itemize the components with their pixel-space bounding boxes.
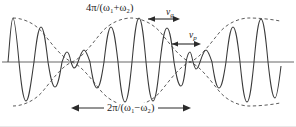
beat-period-label: 2π/(ω₁−ω₂) xyxy=(106,103,156,114)
group-velocity-arrow xyxy=(148,16,180,22)
group-velocity-label: vg xyxy=(166,8,174,19)
envelope-upper-curve xyxy=(13,18,280,62)
group-velocity-subscript: g xyxy=(170,11,174,19)
phase-velocity-label: vp xyxy=(189,31,197,42)
wave-beats-figure: 4π/(ω₁+ω₂) 2π/(ω₁−ω₂) vg vp xyxy=(0,0,296,127)
carrier-period-label: 4π/(ω₁+ω₂) xyxy=(86,3,134,14)
carrier-wave-curve xyxy=(8,18,281,102)
phase-velocity-subscript: p xyxy=(193,34,197,42)
